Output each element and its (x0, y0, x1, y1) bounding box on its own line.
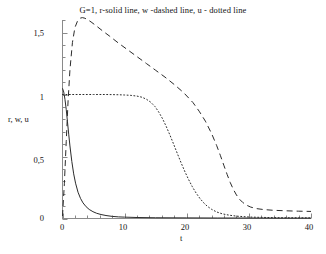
series-line-r (63, 88, 312, 218)
axis-lines (62, 20, 311, 219)
series-line-u (63, 95, 312, 218)
chart-figure: G=1, r-solid line, w -dashed line, u - d… (0, 0, 326, 254)
series-line-w (63, 18, 312, 216)
plot-area (0, 0, 326, 254)
y-axis-ticks (63, 21, 68, 220)
